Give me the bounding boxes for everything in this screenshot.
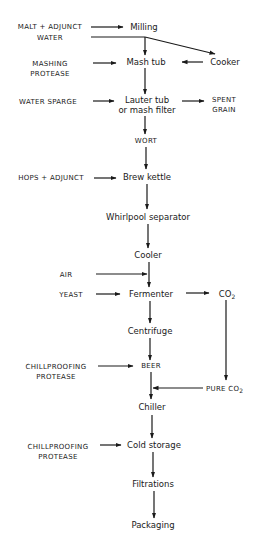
output-co2: CO2 xyxy=(212,289,242,302)
node-brew-kettle: Brew kettle xyxy=(116,172,178,182)
input-malt-adjunct: MALT + ADJUNCT xyxy=(12,22,88,32)
pure-co2-label: PURE CO xyxy=(206,385,239,393)
node-mash-filter: or mash filter xyxy=(110,105,184,115)
co2-label: CO xyxy=(219,289,232,299)
node-filtrations: Filtrations xyxy=(124,479,182,489)
node-fermenter: Fermenter xyxy=(122,289,180,299)
node-cooler: Cooler xyxy=(126,250,170,260)
input-water-sparge: WATER SPARGE xyxy=(10,97,86,107)
flow-arrows xyxy=(0,0,266,547)
node-wort: WORT xyxy=(130,136,162,146)
input-chillproofing-protease-1-line2: PROTEASE xyxy=(18,372,94,382)
input-chillproofing-protease-1-line1: CHILLPROOFING xyxy=(18,362,94,372)
input-yeast: YEAST xyxy=(58,290,84,300)
output-spent-grain-line2: GRAIN xyxy=(206,105,242,115)
node-lauter-tub: Lauter tub xyxy=(114,95,180,105)
node-centrifuge: Centrifuge xyxy=(122,326,178,336)
node-mash-tub: Mash tub xyxy=(118,57,174,67)
node-cold-storage: Cold storage xyxy=(122,440,186,450)
output-pure-co2: PURE CO2 xyxy=(206,384,262,396)
co2-subscript: 2 xyxy=(231,293,235,300)
node-milling: Milling xyxy=(124,22,164,32)
input-water: WATER xyxy=(12,33,88,43)
node-cooker: Cooker xyxy=(205,57,245,67)
pure-co2-subscript: 2 xyxy=(239,387,243,394)
input-mashing-protease-line1: MASHING xyxy=(20,59,80,69)
output-spent-grain-line1: SPENT xyxy=(206,95,242,105)
node-whirlpool-separator: Whirlpool separator xyxy=(100,212,196,222)
input-air: AIR xyxy=(58,270,74,280)
input-hops-adjunct: HOPS + ADJUNCT xyxy=(12,173,90,183)
node-beer: BEER xyxy=(134,361,168,371)
node-packaging: Packaging xyxy=(124,520,182,530)
input-chillproofing-protease-2-line1: CHILLPROOFING xyxy=(20,442,96,452)
input-mashing-protease-line2: PROTEASE xyxy=(20,69,80,79)
input-chillproofing-protease-2-line2: PROTEASE xyxy=(20,452,96,462)
node-chiller: Chiller xyxy=(130,402,174,412)
